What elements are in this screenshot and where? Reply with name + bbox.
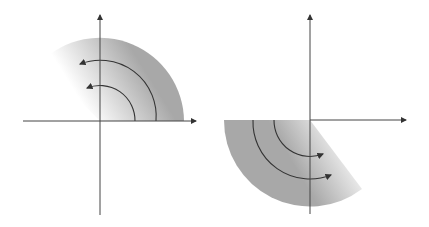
left-panel xyxy=(23,15,196,215)
diagram-canvas xyxy=(0,0,429,227)
left-sector xyxy=(41,38,184,121)
right-panel xyxy=(224,15,406,214)
right-sector xyxy=(224,120,362,207)
